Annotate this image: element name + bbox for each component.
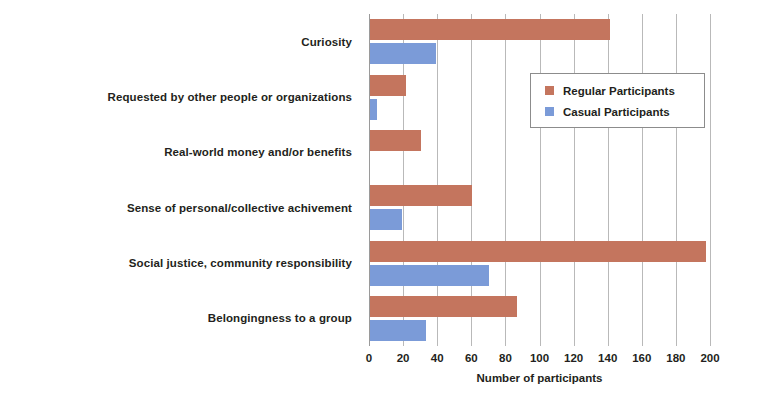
bar-regular-1 — [370, 75, 406, 96]
value-axis-tick-40: 40 — [431, 352, 444, 364]
chart-legend: Regular Participants Casual Participants — [530, 73, 705, 128]
legend-swatch-regular-icon — [545, 86, 554, 95]
bar-casual-0 — [370, 43, 436, 64]
gridline — [574, 14, 575, 346]
value-axis-tick-120: 120 — [564, 352, 583, 364]
bar-casual-5 — [370, 320, 426, 341]
value-axis-tick-100: 100 — [530, 352, 549, 364]
value-axis-tick-140: 140 — [598, 352, 617, 364]
category-label-requested-by-others: Requested by other people or organizatio… — [0, 91, 352, 103]
legend-swatch-casual-icon — [545, 107, 554, 116]
gridline — [710, 14, 711, 346]
value-axis-tick-20: 20 — [397, 352, 410, 364]
legend-label-regular: Regular Participants — [563, 85, 675, 97]
bar-regular-5 — [370, 296, 517, 317]
bar-casual-1 — [370, 99, 377, 120]
legend-label-casual: Casual Participants — [563, 106, 670, 118]
bar-regular-2 — [370, 130, 421, 151]
category-label-belongingness: Belongingness to a group — [0, 312, 352, 324]
bar-regular-0 — [370, 19, 610, 40]
gridline — [608, 14, 609, 346]
category-label-curiosity: Curiosity — [0, 36, 352, 48]
gridline — [676, 14, 677, 346]
category-label-social-justice: Social justice, community responsibility — [0, 257, 352, 269]
legend-item-regular: Regular Participants — [545, 80, 704, 101]
value-axis-tick-0: 0 — [366, 352, 372, 364]
value-axis-tick-180: 180 — [666, 352, 685, 364]
gridline — [642, 14, 643, 346]
x-axis-title: Number of participants — [369, 372, 710, 384]
bar-chart: Curiosity Requested by other people or o… — [0, 0, 759, 412]
value-axis-tick-200: 200 — [700, 352, 719, 364]
value-axis-tick-60: 60 — [465, 352, 478, 364]
plot-area — [369, 14, 710, 346]
gridline — [540, 14, 541, 346]
value-axis-tick-labels: 020406080100120140160180200 — [369, 352, 710, 368]
bar-casual-4 — [370, 265, 489, 286]
bar-regular-3 — [370, 185, 472, 206]
bar-casual-3 — [370, 209, 402, 230]
legend-item-casual: Casual Participants — [545, 101, 704, 122]
value-axis-tick-80: 80 — [499, 352, 512, 364]
bar-regular-4 — [370, 241, 706, 262]
category-label-sense-of-achievement: Sense of personal/collective achivement — [0, 202, 352, 214]
value-axis-tick-160: 160 — [632, 352, 651, 364]
category-axis-labels: Curiosity Requested by other people or o… — [0, 14, 360, 346]
category-label-real-world-money: Real-world money and/or benefits — [0, 146, 352, 158]
